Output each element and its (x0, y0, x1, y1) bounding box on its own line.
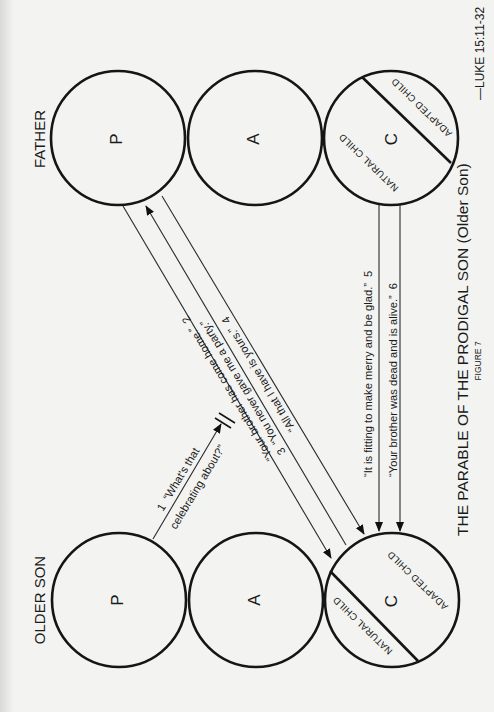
older-son-parent-letter: P (108, 594, 127, 605)
father-child-state: C ADAPTED CHILD NATURAL CHILD (324, 71, 458, 205)
father-adult-letter: A (244, 133, 263, 145)
older-son-label: OLDER SON (31, 556, 48, 644)
transaction-diagram: FATHER P A C ADAPTED CHILD NATURAL CHILD… (0, 0, 494, 712)
transaction-5-text: “It is fitting to make merry and be glad… (362, 271, 374, 477)
transaction-6: “Your brother was dead and is alive.”6 (387, 205, 400, 531)
father-label: FATHER (31, 110, 48, 168)
transaction-2: “Your brother has come home.”2 (123, 206, 331, 558)
older-son-adult-state: A (189, 533, 323, 667)
transaction-1-arrow (153, 424, 221, 539)
older-son-child-state: C ADAPTED CHILD NATURAL CHILD (325, 533, 459, 667)
father-parent-state: P (51, 71, 185, 205)
scripture-reference: —LUKE 15:11-32 (473, 7, 487, 100)
older-son-column: OLDER SON P A C ADAPTED CHILD NATURAL CH… (31, 533, 459, 667)
father-adapted-child-label: ADAPTED CHILD (389, 76, 454, 139)
father-child-letter: C (382, 133, 401, 145)
father-adult-state: A (188, 71, 322, 205)
older-son-child-letter: C (382, 595, 401, 607)
transaction-6-text: “Your brother was dead and is alive.”6 (387, 283, 399, 477)
older-son-adult-letter: A (245, 594, 264, 606)
transaction-1: 1“What's that celebrating about?” (153, 413, 235, 539)
transaction-5: “It is fitting to make merry and be glad… (362, 205, 379, 531)
figure-number: FIGURE 7 (473, 341, 483, 380)
older-son-parent-state: P (52, 533, 186, 667)
figure-title: THE PARABLE OF THE PRODIGAL SON (Older S… (454, 163, 471, 536)
father-column: FATHER P A C ADAPTED CHILD NATURAL CHILD (31, 71, 458, 205)
diagram-page: FATHER P A C ADAPTED CHILD NATURAL CHILD… (0, 0, 494, 712)
father-parent-letter: P (107, 133, 126, 144)
